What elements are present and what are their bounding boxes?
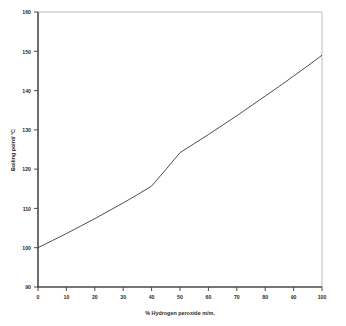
chart-figure: 90 100 110 120 130 140 150 160 0 10 — [0, 0, 346, 326]
x-tick-label: 80 — [262, 294, 268, 300]
x-tick-label: 70 — [234, 294, 240, 300]
x-tick-label: 20 — [92, 294, 98, 300]
y-tick-label: 130 — [22, 127, 31, 133]
x-tick-label: 10 — [64, 294, 70, 300]
y-tick-label: 100 — [22, 245, 31, 251]
y-tick-label: 110 — [23, 206, 31, 212]
x-axis-title: % Hydrogen peroxide m/m. — [145, 310, 215, 316]
x-tick-label: 40 — [149, 294, 155, 300]
y-tick-label: 150 — [22, 49, 31, 55]
y-axis-title: Boiling point/ °C — [10, 129, 16, 171]
x-tick-label: 100 — [318, 294, 327, 300]
chart-plot-area: 90 100 110 120 130 140 150 160 0 10 — [0, 0, 346, 326]
x-tick-label: 30 — [120, 294, 126, 300]
x-tick-label: 90 — [291, 294, 297, 300]
y-tick-label: 90 — [25, 284, 31, 290]
y-tick-label: 140 — [22, 88, 31, 94]
x-tick-label: 60 — [206, 294, 212, 300]
x-tick-label: 50 — [177, 294, 183, 300]
y-tick-label: 160 — [22, 9, 31, 15]
y-tick-label: 120 — [22, 166, 31, 172]
y-axis-tick-labels: 90 100 110 120 130 140 150 160 — [22, 9, 31, 290]
x-axis-tick-labels: 0 10 20 30 40 50 60 70 80 90 100 — [37, 294, 327, 300]
x-tick-label: 0 — [37, 294, 40, 300]
plot-background — [38, 12, 322, 287]
